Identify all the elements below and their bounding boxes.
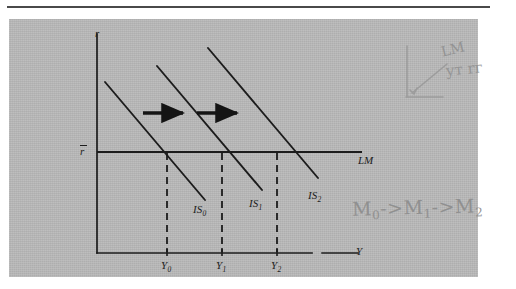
y-axis-label: r [95,28,99,39]
tick-label-y1: Y1 [216,260,226,271]
is1-curve-line [157,66,262,190]
figure-page: r Y r LM IS0 IS1 IS2 Y0 Y1 Y2 M0->M1->M2… [0,0,516,289]
handwritten-money-supply-note: M0->M1->M2 [352,194,484,219]
is0-curve-label: IS0 [193,204,206,215]
tick-label-y0: Y0 [161,260,171,271]
x-axis-label: Y [356,246,362,257]
handwritten-sketch-label-bottom: yт rг [445,58,483,80]
is0-curve-line [105,82,205,200]
is1-curve-label: IS1 [249,198,262,209]
lm-curve-label: LM [358,155,373,166]
is2-curve-label: IS2 [308,190,321,201]
tick-label-y2: Y2 [271,260,281,271]
interest-rate-label: r [80,146,84,157]
